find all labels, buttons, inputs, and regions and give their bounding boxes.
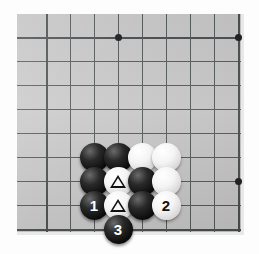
grid-line-vertical [238, 14, 240, 232]
triangle-marker-icon [110, 199, 126, 212]
grid-line-horizontal [17, 133, 241, 134]
grid-line-horizontal [17, 61, 241, 62]
grid-line-horizontal [17, 109, 241, 110]
stone-move-3[interactable]: 3 [104, 215, 133, 244]
triangle-marker-icon [110, 175, 126, 188]
grid-line-vertical [190, 14, 191, 232]
grid-line-vertical [46, 14, 48, 232]
grid-line-horizontal [17, 85, 241, 86]
stone-move-2[interactable]: 2 [152, 191, 181, 220]
star-point-top-left [115, 34, 122, 41]
stone-move-number: 2 [162, 198, 170, 213]
star-point-top-right [235, 34, 242, 41]
grid-line-vertical [214, 14, 215, 232]
go-board[interactable]: 123 [17, 14, 241, 232]
go-diagram-stage: 123 [0, 0, 259, 254]
star-point-right [235, 178, 242, 185]
stone-move-number: 3 [114, 222, 122, 237]
grid-line-horizontal [17, 37, 241, 39]
grid-line-vertical [70, 14, 71, 232]
stone-move-number: 1 [90, 198, 98, 213]
